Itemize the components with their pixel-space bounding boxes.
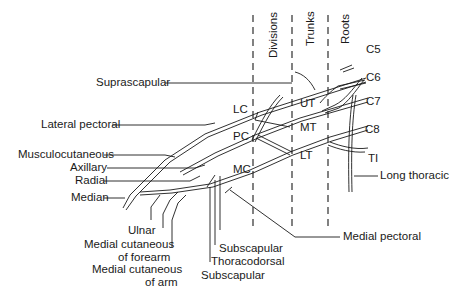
root-label-c5: C5 bbox=[366, 44, 381, 56]
section-label-trunks: Trunks bbox=[305, 11, 317, 46]
root-label-c8: C8 bbox=[365, 124, 380, 136]
nerve-label-upper-subscapular: Subscapular bbox=[219, 243, 283, 255]
root-label-t1: TI bbox=[368, 153, 378, 165]
nerve-label-musculocutaneous: Musculocutaneous bbox=[18, 149, 114, 161]
nerve-label-suprascapular: Suprascapular bbox=[96, 77, 170, 89]
cord-label-medial: MC bbox=[233, 164, 251, 176]
trunk-label-upper: UT bbox=[300, 98, 315, 110]
section-label-divisions: Divisions bbox=[268, 12, 280, 58]
nerve-label-thoracodorsal: Thoracodorsal bbox=[211, 256, 285, 268]
root-label-c7: C7 bbox=[366, 96, 381, 108]
nerve-label-medial-cutaneous-arm-line1: Medial cutaneous bbox=[92, 264, 182, 276]
nerve-label-axillary: Axillary bbox=[70, 162, 107, 174]
trunk-label-middle: MT bbox=[300, 122, 317, 134]
nerve-label-lower-subscapular: Subscapular bbox=[201, 270, 265, 282]
section-label-roots: Roots bbox=[340, 14, 352, 44]
nerve-label-lateral-pectoral: Lateral pectoral bbox=[41, 119, 120, 131]
nerve-label-medial-pectoral: Medial pectoral bbox=[343, 231, 421, 243]
cord-label-posterior: PC bbox=[233, 131, 249, 143]
nerve-label-medial-cutaneous-forearm-line1: Medial cutaneous bbox=[84, 239, 174, 251]
nerve-label-medial-cutaneous-arm-line2: of arm bbox=[145, 277, 178, 289]
nerve-label-median: Median bbox=[71, 192, 109, 204]
trunk-label-lower: LT bbox=[300, 150, 313, 162]
nerve-label-medial-cutaneous-forearm-line2: of forearm bbox=[118, 252, 170, 264]
root-label-c6: C6 bbox=[366, 72, 381, 84]
cord-label-lateral: LC bbox=[233, 104, 248, 116]
nerve-label-long-thoracic: Long thoracic bbox=[380, 170, 449, 182]
nerve-label-radial: Radial bbox=[75, 175, 108, 187]
nerve-label-ulnar: Ulnar bbox=[128, 225, 155, 237]
